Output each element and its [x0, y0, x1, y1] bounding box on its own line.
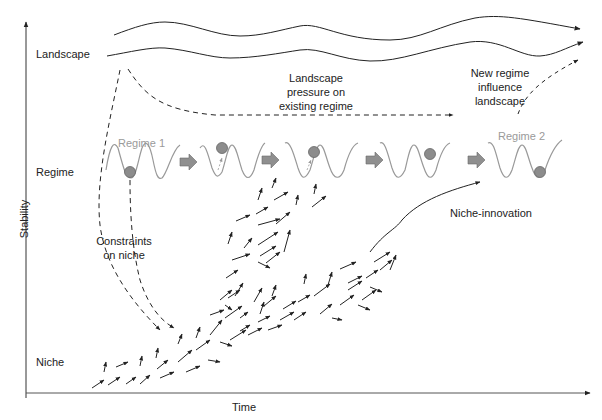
landscape-upper-line	[114, 16, 580, 40]
landscape-waves	[107, 16, 583, 61]
regime-wells	[106, 140, 562, 178]
niche-arrows	[92, 178, 396, 388]
regime-well-3	[285, 143, 358, 178]
transition-arrow-2	[262, 152, 279, 168]
regime-well-5	[488, 140, 562, 177]
ball-5	[535, 167, 546, 178]
level-label-regime: Regime	[36, 165, 74, 179]
constraints-arrows	[99, 70, 174, 330]
transition-arrow-4	[468, 152, 485, 168]
landscape-pressure-label: Landscape pressure on existing regime	[266, 71, 366, 113]
regime-well-2	[200, 143, 265, 178]
regime-well-4	[380, 143, 450, 178]
x-axis-label: Time	[232, 400, 256, 414]
transition-arrow-1	[180, 154, 197, 170]
ball-4	[425, 149, 436, 160]
niche-innovation-label: Niche-innovation	[450, 206, 532, 220]
new-regime-influence-label: New regime influence landscape	[460, 66, 540, 108]
level-label-landscape: Landscape	[36, 47, 90, 61]
level-label-niche: Niche	[36, 355, 64, 369]
y-axis-label: Stability	[18, 199, 30, 239]
ball-3	[309, 147, 320, 158]
ball-1	[125, 167, 136, 178]
constraints-on-niche-label: Constraints on niche	[94, 234, 154, 262]
regime-2-label: Regime 2	[498, 129, 545, 143]
transition-arrow-3	[366, 152, 383, 168]
ball-2	[217, 143, 228, 154]
landscape-lower-line	[107, 41, 583, 61]
regime-1-label: Regime 1	[118, 136, 165, 150]
